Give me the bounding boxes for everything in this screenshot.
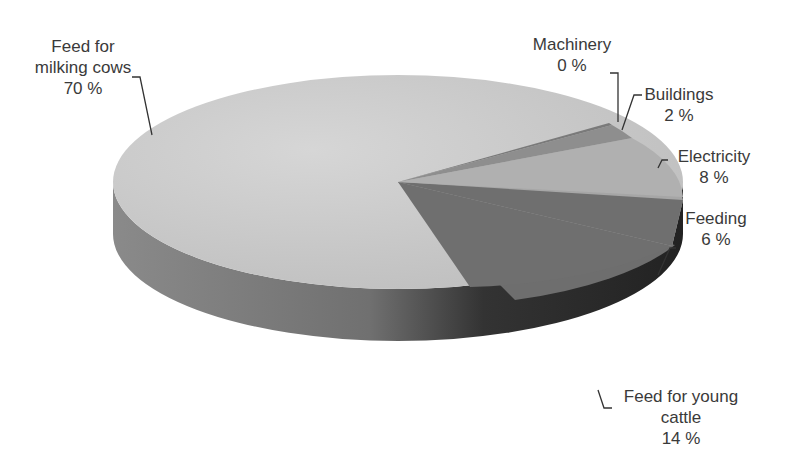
label-feed-young-cattle: Feed for young cattle 14 % <box>606 386 756 449</box>
label-feed-milking-cows: Feed for milking cows 70 % <box>24 36 142 99</box>
label-buildings: Buildings 2 % <box>634 84 724 126</box>
label-electricity: Electricity 8 % <box>664 146 764 188</box>
label-machinery: Machinery 0 % <box>520 34 624 76</box>
label-feeding: Feeding 6 % <box>674 208 758 250</box>
